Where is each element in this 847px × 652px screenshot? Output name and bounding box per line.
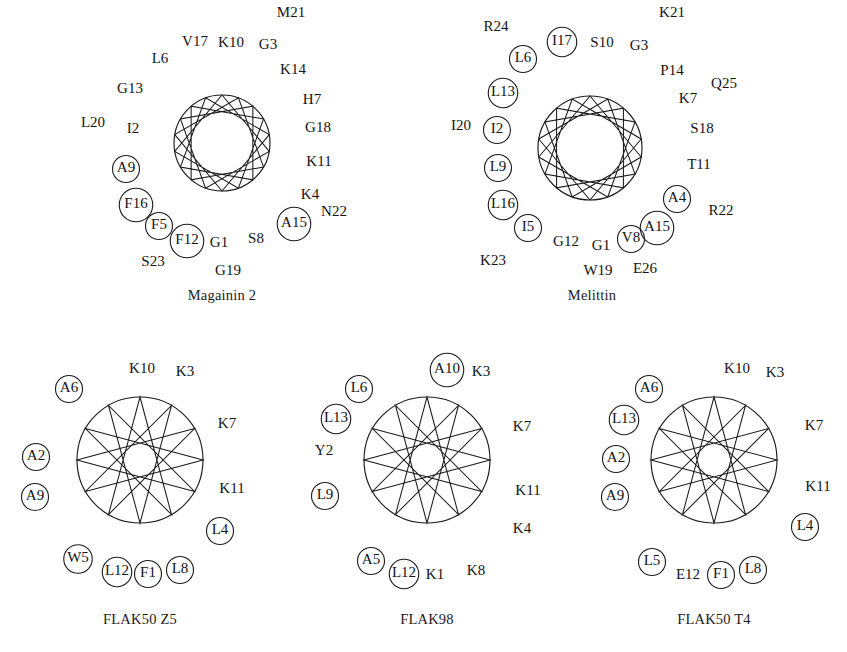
residue-marker: L13 xyxy=(609,405,639,435)
wheel-circle xyxy=(651,397,777,523)
residue-marker: L4 xyxy=(792,514,819,541)
residue-ring xyxy=(602,484,629,511)
residue-marker: A9 xyxy=(602,484,629,511)
residue-label: L5 xyxy=(644,552,661,568)
residue-ring xyxy=(639,549,666,576)
residue-label: K10 xyxy=(724,360,750,376)
residue-marker: L5 xyxy=(639,549,666,576)
residue-marker: A2 xyxy=(603,446,630,473)
residue-label: F1 xyxy=(713,565,729,581)
wheel-star-polygon xyxy=(651,397,777,523)
residue-label: A6 xyxy=(640,379,659,395)
helical-wheel-flak50t4: K10K3A6L13K7A2A9K11L4L5E12F1L8 xyxy=(0,0,847,652)
residue-marker: K10 xyxy=(724,360,750,376)
residue-ring xyxy=(636,376,663,403)
residue-ring xyxy=(603,446,630,473)
residue-label: K3 xyxy=(766,364,784,380)
helical-wheel-figure: M21V17K10G3L6K14G13H7L20I2G18K11A9K4F16N… xyxy=(0,0,847,652)
residue-label: L13 xyxy=(612,410,636,426)
residue-ring xyxy=(708,562,735,589)
residue-marker: F1 xyxy=(708,562,735,589)
residue-ring xyxy=(740,557,767,584)
panel-caption-flak50t4: FLAK50 T4 xyxy=(614,611,814,628)
residue-marker: K11 xyxy=(805,478,830,494)
residue-marker: L8 xyxy=(740,557,767,584)
residue-label: E12 xyxy=(676,566,700,582)
residue-label: K11 xyxy=(805,478,830,494)
residue-label: A9 xyxy=(606,487,624,503)
residue-label: L8 xyxy=(745,560,762,576)
residue-label: A2 xyxy=(607,449,625,465)
residue-marker: K7 xyxy=(805,417,824,433)
residue-ring xyxy=(792,514,819,541)
residue-label: K7 xyxy=(805,417,824,433)
residue-marker: E12 xyxy=(676,566,700,582)
residue-label: L4 xyxy=(797,517,814,533)
residue-marker: K3 xyxy=(766,364,784,380)
residue-ring xyxy=(609,405,639,435)
residue-marker: A6 xyxy=(636,376,663,403)
